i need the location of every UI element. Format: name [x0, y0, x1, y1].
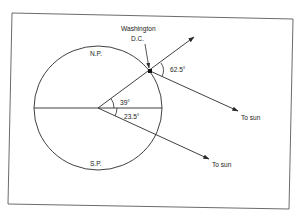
- earth-sun-angle-diagram: Washington D.C. N.P. S.P. 39° 23.5° 62.5…: [0, 0, 302, 220]
- washington-label-line1: Washington: [121, 25, 156, 33]
- angle-arc-latitude: [111, 99, 114, 109]
- figure-frame: [8, 13, 293, 209]
- north-pole-label: N.P.: [90, 50, 102, 57]
- washington-label-line2: D.C.: [131, 35, 144, 42]
- south-pole-label: S.P.: [90, 160, 102, 167]
- washington-point-marker: [148, 69, 152, 73]
- sun-ray-from-center: [98, 108, 209, 159]
- to-sun-label-lower: To sun: [212, 161, 232, 168]
- to-sun-label-upper: To sun: [241, 114, 261, 121]
- sun-ray-from-washington: [150, 71, 238, 111]
- latitude-angle-label: 39°: [120, 99, 130, 106]
- angle-arc-declination: [115, 108, 117, 116]
- elevation-angle-label: 62.5°: [170, 66, 186, 73]
- washington-pointer-arrow: [145, 44, 149, 68]
- declination-angle-label: 23.5°: [124, 113, 140, 120]
- angle-arc-elevation: [161, 63, 163, 77]
